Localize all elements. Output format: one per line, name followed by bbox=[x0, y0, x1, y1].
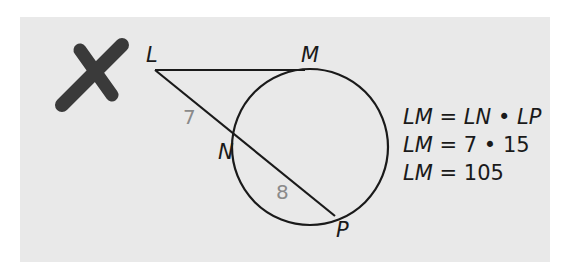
point-label-l: L bbox=[146, 45, 158, 66]
work-equations: LM = LN • LP LM = 7 • 15 LM = 105 bbox=[403, 103, 541, 187]
circle bbox=[232, 69, 388, 225]
equation-line-3: LM = 105 bbox=[403, 159, 541, 187]
segment-label-ln: 7 bbox=[183, 107, 196, 127]
equation-line-1: LM = LN • LP bbox=[403, 103, 541, 131]
equation-line-2: LM = 7 • 15 bbox=[403, 131, 541, 159]
cross-mark-icon bbox=[62, 45, 122, 105]
secant-segment-lp bbox=[155, 70, 335, 216]
point-label-m: M bbox=[301, 45, 319, 66]
point-label-p: P bbox=[336, 220, 349, 241]
segment-label-np: 8 bbox=[276, 182, 289, 202]
point-label-n: N bbox=[218, 142, 234, 163]
